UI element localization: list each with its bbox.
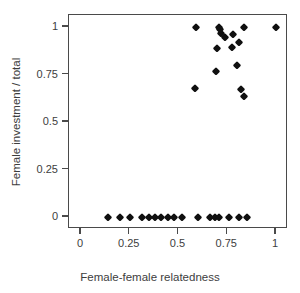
- y-axis-tick-label: 0.75: [26, 68, 58, 79]
- y-axis-tick-label: 0.5: [26, 116, 58, 127]
- y-axis-tick: [62, 73, 68, 74]
- data-points-layer: [69, 15, 286, 227]
- y-axis-tick-label: 1: [26, 21, 58, 32]
- data-point: [229, 30, 237, 38]
- y-axis-tick: [62, 120, 68, 121]
- x-axis-tick-label: 0.75: [216, 238, 237, 249]
- data-point: [126, 213, 134, 221]
- y-axis-label-container: Female investment / total: [6, 0, 26, 243]
- data-point: [235, 38, 243, 46]
- data-point: [116, 213, 124, 221]
- data-point: [192, 23, 200, 31]
- y-axis-tick-label: 0.25: [26, 163, 58, 174]
- scatter-plot-figure: Female-female relatedness Female investm…: [0, 0, 300, 293]
- y-axis-tick: [62, 215, 68, 216]
- data-point: [228, 43, 236, 51]
- x-axis-tick: [226, 228, 227, 234]
- x-axis-tick-label: 1: [272, 238, 278, 249]
- data-point: [233, 61, 241, 69]
- data-point: [243, 213, 251, 221]
- data-point: [240, 92, 248, 100]
- data-point: [215, 213, 223, 221]
- y-axis-tick: [62, 25, 68, 26]
- data-point: [191, 84, 199, 92]
- data-point: [240, 23, 248, 31]
- x-axis-tick: [128, 228, 129, 234]
- y-axis-label: Female investment / total: [10, 57, 22, 185]
- data-point: [235, 213, 243, 221]
- x-axis-tick-label: 0: [77, 238, 83, 249]
- x-axis-tick: [177, 228, 178, 234]
- data-point: [194, 213, 202, 221]
- data-point: [178, 213, 186, 221]
- data-point: [104, 213, 112, 221]
- y-axis-tick: [62, 168, 68, 169]
- x-axis-tick-label: 0.5: [170, 238, 185, 249]
- data-point: [212, 67, 220, 75]
- x-axis-tick: [274, 228, 275, 234]
- y-axis-tick-label: 0: [26, 211, 58, 222]
- data-point: [170, 213, 178, 221]
- data-point: [213, 44, 221, 52]
- plot-frame: [68, 14, 287, 228]
- x-axis-tick-label: 0.25: [118, 238, 139, 249]
- x-axis-tick: [79, 228, 80, 234]
- x-axis-label: Female-female relatedness: [0, 271, 300, 283]
- data-point: [225, 213, 233, 221]
- data-point: [272, 23, 280, 31]
